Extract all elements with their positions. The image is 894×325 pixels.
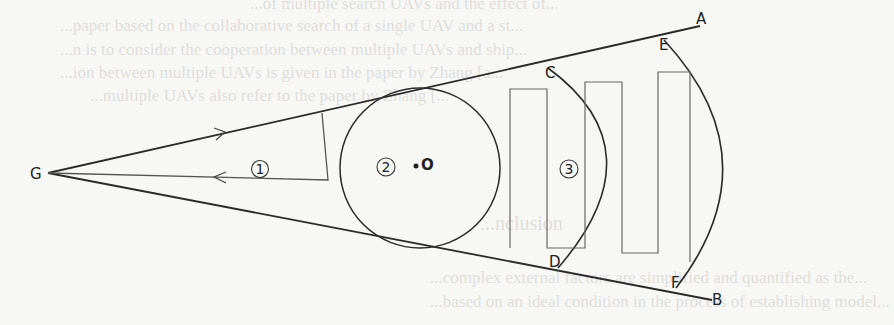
point-D-label: D — [549, 253, 561, 271]
line-GA — [48, 26, 700, 173]
region-3-label: 3 — [565, 161, 574, 177]
point-B-label: B — [712, 291, 722, 309]
arc-EF — [664, 40, 723, 288]
region-1-path — [48, 113, 328, 180]
region-1-label: 1 — [256, 161, 265, 177]
point-C-label: C — [545, 64, 555, 82]
center-point-O — [414, 164, 419, 169]
region-3-serpentine-path — [510, 72, 690, 262]
region-2-circle — [340, 88, 500, 248]
point-F-label: F — [671, 274, 680, 292]
point-E-label: E — [659, 36, 668, 54]
region-2-label: 2 — [382, 159, 391, 175]
arc-CD — [548, 68, 607, 268]
point-G-label: G — [30, 165, 42, 183]
point-O-label: O — [421, 156, 434, 174]
point-A-label: A — [696, 10, 707, 28]
